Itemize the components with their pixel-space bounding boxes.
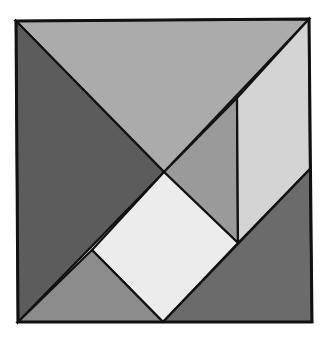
tangram-diagram xyxy=(0,0,328,339)
